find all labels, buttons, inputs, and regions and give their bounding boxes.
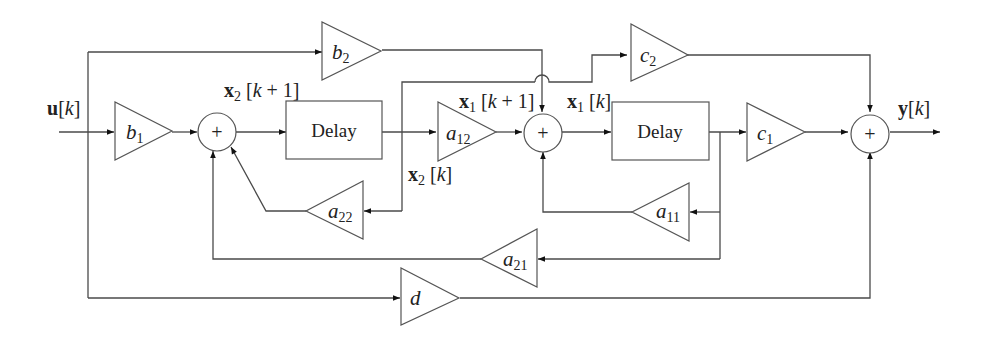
gain-a11: a11 bbox=[632, 183, 689, 241]
label-x1: x1 [k] bbox=[567, 90, 611, 115]
delay-block-1: Delay bbox=[612, 102, 709, 160]
label-x1-next: x1 [k + 1] bbox=[459, 90, 535, 115]
svg-text:+: + bbox=[537, 122, 548, 144]
gain-b1: b1 bbox=[115, 102, 172, 160]
label-input-u: u[k] bbox=[47, 97, 80, 119]
gain-a22: a22 bbox=[306, 181, 363, 239]
gain-a21: a21 bbox=[481, 229, 537, 287]
gain-b2: b2 bbox=[322, 22, 381, 80]
summer-x1: + bbox=[524, 114, 562, 152]
wire-c2-to-sumout bbox=[687, 55, 870, 112]
gain-c2: c2 bbox=[631, 24, 688, 81]
gain-d: d bbox=[401, 268, 459, 325]
label-output-y: y[k] bbox=[898, 97, 930, 120]
delay-block-2: Delay bbox=[286, 101, 382, 159]
gain-c1: c1 bbox=[747, 103, 805, 161]
svg-text:d: d bbox=[410, 286, 421, 310]
wire-a11-to-sum1 bbox=[543, 152, 632, 212]
block-diagram: b1 b2 a12 a22 c2 c1 a11 a21 d Delay Dela… bbox=[0, 0, 983, 338]
wire-x2-to-c2 bbox=[535, 55, 627, 82]
label-x2: x2 [k] bbox=[408, 163, 452, 188]
svg-text:Delay: Delay bbox=[637, 121, 683, 142]
svg-text:Delay: Delay bbox=[311, 120, 357, 141]
summer-x2: + bbox=[198, 113, 236, 151]
svg-text:+: + bbox=[211, 121, 222, 143]
summer-output: + bbox=[851, 115, 889, 153]
label-x2-next: x2 [k + 1] bbox=[224, 79, 300, 104]
svg-text:+: + bbox=[864, 123, 875, 145]
